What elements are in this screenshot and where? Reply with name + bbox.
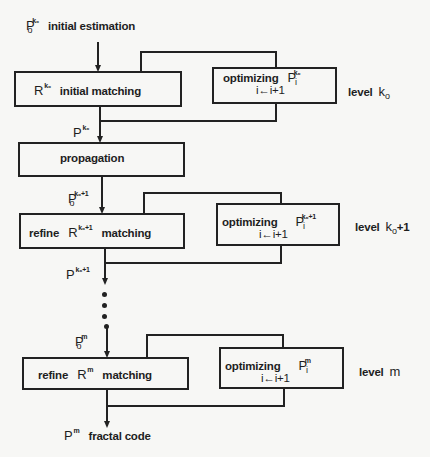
level-label-m: level m (359, 364, 400, 381)
level-label-k0plus1: level ko+1 (355, 219, 409, 236)
input-arrow-line (97, 42, 99, 66)
feedback-line-top-k0plus1 (143, 192, 282, 194)
return-line-bottom-k0 (99, 120, 277, 122)
fractal-code-label: Pm fractal code (64, 427, 151, 443)
ellipsis-dot (102, 303, 107, 308)
feedback-line-left-k0plus1 (143, 192, 145, 214)
bleed-through-line (260, 4, 264, 21)
output-line-k0 (99, 107, 101, 137)
return-line-bottom-k0plus1 (104, 262, 282, 264)
input-label-m: Pom (75, 333, 87, 351)
initial-matching-label: Rk₀ initial matching (34, 82, 141, 98)
refine-matching-label-k0plus1: refine Rk₀+1 matching (29, 224, 151, 240)
iteration-label-k0: i←i+1 (256, 84, 285, 96)
feedback-line-right-m (282, 334, 284, 348)
level-label-k0: level ko (348, 84, 390, 101)
iteration-label-m: i←i+1 (261, 372, 290, 384)
refine-matching-label-m: refine Rm matching (38, 366, 152, 382)
output-label-k0plus1: Pk₀+1 (66, 266, 90, 282)
propagation-output-line (101, 177, 103, 208)
output-label-k0: Pk₀ (73, 124, 89, 140)
input-label-k0plus1: Pok₀+1 (68, 190, 89, 208)
ellipsis-dot (102, 314, 107, 319)
feedback-line-top-m (146, 334, 284, 336)
feedback-line-left-m (146, 334, 148, 358)
feedback-line-top-k0 (140, 51, 277, 53)
output-line-k0plus1 (104, 249, 106, 279)
output-arrowhead-k0plus1 (102, 278, 108, 285)
initial-estimation-label: Pok₀ initial estimation (26, 17, 135, 35)
return-line-bottom-m (106, 405, 285, 407)
feedback-line-left-k0 (140, 51, 142, 72)
input-line-m (106, 326, 108, 352)
propagation-label: propagation (60, 152, 124, 164)
ellipsis-dot (102, 292, 107, 297)
iteration-label-k0plus1: i←i+1 (259, 228, 288, 240)
